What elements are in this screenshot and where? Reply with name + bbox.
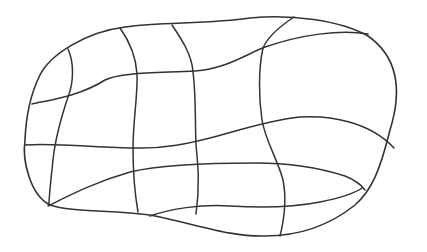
grid-line-vertical-1 [49, 49, 73, 205]
grid-line-horizontal-3 [48, 163, 365, 206]
grid-line-vertical-4 [260, 17, 295, 236]
warped-grid-diagram [0, 0, 427, 252]
grid-line-vertical-3 [172, 25, 198, 214]
grid-line-vertical-2 [120, 28, 138, 212]
grid-line-horizontal-2 [25, 117, 394, 148]
grid-line-horizontal-1 [32, 32, 368, 104]
blob-outline [24, 17, 396, 236]
grid-line-horizontal-4 [150, 188, 362, 216]
